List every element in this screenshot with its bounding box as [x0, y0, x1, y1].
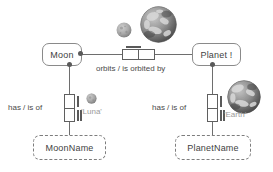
value-type-planetname-label: PlanetName — [187, 143, 239, 153]
connector-moon-to-orbits — [81, 54, 122, 55]
connector-has-to-moonname — [69, 122, 70, 135]
role-moon-has-bottom[interactable] — [65, 109, 74, 122]
predicate-label-planet-has: has / is of — [152, 104, 186, 112]
value-type-moonname[interactable]: MoonName — [33, 135, 106, 160]
uniqueness-constraint-orbits — [126, 46, 141, 48]
value-type-moonname-label: MoonName — [45, 143, 93, 153]
fact-type-planet-has-name-roleboxes[interactable] — [207, 94, 218, 122]
role-orbits-right[interactable] — [139, 50, 154, 59]
orm-diagram-canvas: Moon Planet ! orbits / is orbited by has… — [0, 0, 273, 172]
predicate-label-moon-has: has / is of — [8, 104, 42, 112]
predicate-label-orbits: orbits / is orbited by — [96, 65, 165, 73]
entity-type-planet[interactable]: Planet ! — [192, 43, 241, 66]
entity-type-planet-label: Planet ! — [200, 50, 232, 60]
earth-image-right — [227, 80, 261, 114]
role-planet-has-top[interactable] — [208, 95, 217, 109]
moon-image-top — [116, 22, 132, 38]
connector-orbits-to-planet — [155, 54, 192, 55]
earth-image-top — [140, 6, 177, 43]
connector-planet-to-has — [212, 64, 213, 94]
sample-value-earth: 'Earth' — [224, 111, 246, 119]
uniqueness-constraint-moon-has-top — [77, 96, 79, 107]
connector-has-to-planetname — [212, 122, 213, 135]
uniqueness-constraint-planet-has-top — [220, 96, 222, 107]
uniqueness-constraint-planet-has-bottom-a — [220, 110, 222, 121]
entity-type-moon[interactable]: Moon — [42, 43, 82, 66]
fact-type-moon-has-name-roleboxes[interactable] — [64, 94, 75, 122]
mandatory-dot-moon-right — [78, 51, 83, 56]
moon-image-small — [86, 93, 97, 104]
role-orbits-left[interactable] — [123, 50, 139, 59]
role-planet-has-bottom[interactable] — [208, 109, 217, 122]
uniqueness-constraint-moon-has-bottom-a — [77, 110, 79, 121]
fact-type-orbits-roleboxes[interactable] — [122, 49, 155, 60]
value-type-planetname[interactable]: PlanetName — [175, 135, 251, 160]
connector-moon-to-has — [69, 64, 70, 94]
mandatory-dot-moon-bottom — [67, 62, 72, 67]
mandatory-dot-planet-bottom — [210, 62, 215, 67]
entity-type-moon-label: Moon — [50, 50, 73, 60]
sample-value-luna: 'Luna' — [81, 108, 102, 116]
role-moon-has-top[interactable] — [65, 95, 74, 109]
